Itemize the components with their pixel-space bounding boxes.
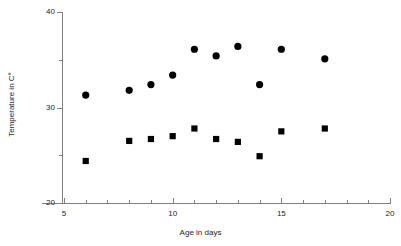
data-point-square xyxy=(278,128,284,134)
data-point-square xyxy=(170,133,176,139)
data-point-square xyxy=(83,158,89,164)
y-axis-title: Temperature in C° xyxy=(7,45,16,165)
x-tick-label: 10 xyxy=(161,209,185,218)
y-tick-label: 40 xyxy=(33,7,55,16)
data-point-square xyxy=(322,125,328,131)
data-point-circle xyxy=(213,52,220,59)
data-point-square xyxy=(257,153,263,159)
data-point-square xyxy=(191,125,197,131)
data-point-circle xyxy=(256,81,263,88)
x-tick-label: 5 xyxy=(52,209,76,218)
data-point-circle xyxy=(191,46,198,53)
axes-group xyxy=(42,12,390,204)
x-axis-title: Age in days xyxy=(0,228,401,237)
data-point-circle xyxy=(82,91,89,98)
chart-figure: 2030405101520 Age in days Temperature in… xyxy=(0,0,401,246)
x-tick-label: 20 xyxy=(378,209,401,218)
data-point-circle xyxy=(126,87,133,94)
data-points-group xyxy=(82,43,328,164)
data-point-circle xyxy=(321,55,328,62)
data-point-circle xyxy=(147,81,154,88)
data-point-square xyxy=(213,136,219,142)
y-tick-label: 30 xyxy=(33,103,55,112)
data-point-circle xyxy=(234,43,241,50)
data-point-circle xyxy=(278,46,285,53)
data-point-circle xyxy=(169,71,176,78)
y-tick-label: 20 xyxy=(33,198,55,207)
data-point-square xyxy=(148,136,154,142)
x-tick-label: 15 xyxy=(269,209,293,218)
data-point-square xyxy=(235,139,241,145)
data-point-square xyxy=(126,138,132,144)
